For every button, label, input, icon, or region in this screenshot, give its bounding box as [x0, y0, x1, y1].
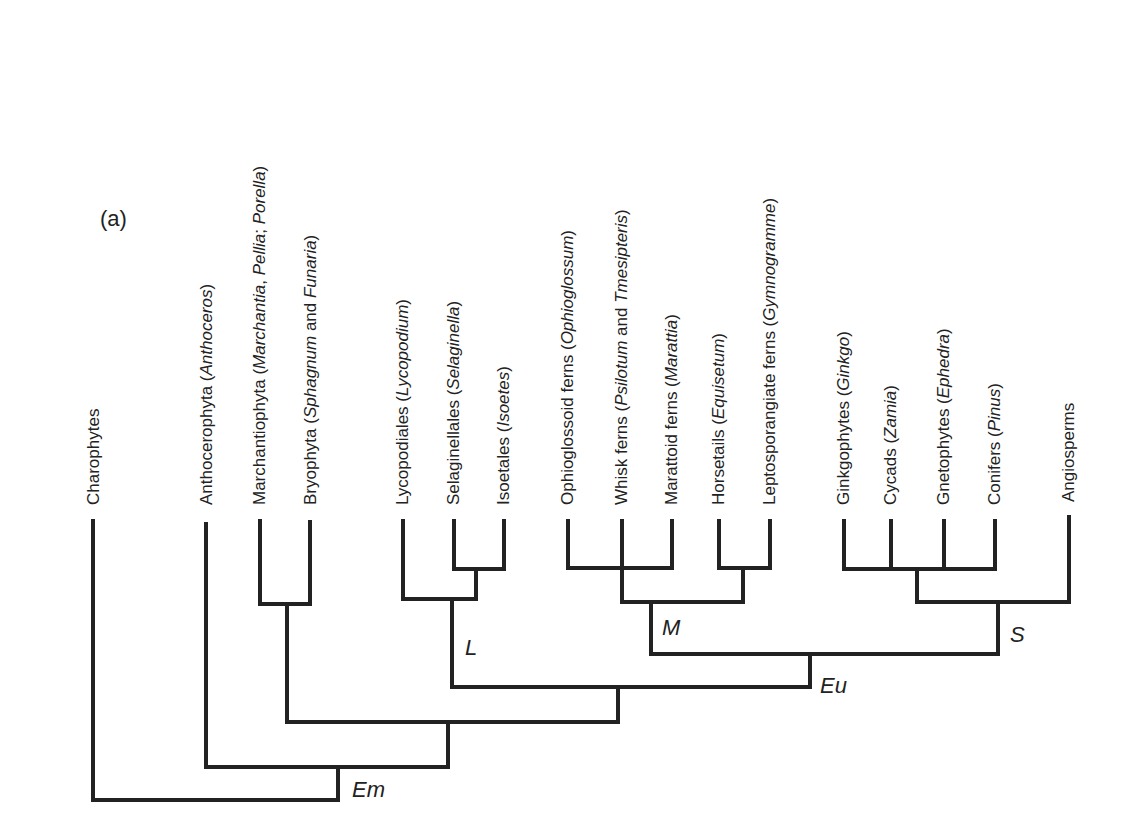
branch-anthocerophyta	[206, 524, 448, 767]
branch-liverwort-moss	[260, 521, 310, 604]
taxon-cycads: Cycads (Zamia)	[881, 385, 901, 505]
taxon-gnetophytes: Gnetophytes (Ephedra)	[934, 328, 954, 505]
taxon-leptosporangiate-ferns: Leptosporangiate ferns (Gymnogramme)	[760, 198, 780, 505]
branch-l-stem	[452, 599, 810, 687]
taxon-whisk-ferns: Whisk ferns (Psilotum and Tmesipteris)	[612, 209, 632, 505]
taxon-anthocerophyta: Anthocerophyta (Anthoceros)	[197, 284, 217, 505]
taxon-ginkgophytes: Ginkgophytes (Ginkgo)	[834, 331, 854, 505]
branch-charophytes	[93, 521, 338, 800]
taxon-marchantiophyta: Marchantiophyta (Marchantia, Pellia; Por…	[250, 166, 270, 505]
branch-horsetails-lepto	[719, 521, 770, 568]
taxon-charophytes: Charophytes	[84, 409, 104, 505]
taxon-conifers: Conifers (Pinus)	[985, 383, 1005, 505]
taxon-angiosperms: Angiosperms	[1059, 403, 1079, 502]
clade-label-l: L	[465, 635, 477, 661]
taxon-lycopodiales: Lycopodiales (Lycopodium)	[393, 299, 413, 505]
taxon-marattoid-ferns: Marattoid ferns (Marattia)	[662, 314, 682, 505]
clade-label-eu: Eu	[820, 673, 847, 699]
taxon-horsetails: Horsetails (Equisetum)	[709, 333, 729, 505]
clade-label-m: M	[662, 615, 680, 641]
clade-label-em: Em	[352, 777, 385, 803]
branch-lycophytes	[403, 521, 476, 599]
taxon-selaginellales: Selaginellales (Selaginella)	[444, 301, 464, 505]
branch-gymnosperms	[844, 521, 995, 569]
branch-m-stem	[651, 602, 998, 654]
taxon-bryophyta: Bryophyta (Sphagnum and Funaria)	[301, 235, 321, 505]
clade-label-s: S	[1010, 622, 1025, 648]
taxon-isoetales: Isoetales (Isoetes)	[494, 366, 514, 505]
taxon-ophioglossoid-ferns: Ophioglossoid ferns (Ophioglossum)	[558, 230, 578, 505]
branch-monilophytes	[622, 568, 743, 602]
branch-selaginella-isoetes	[454, 521, 504, 569]
